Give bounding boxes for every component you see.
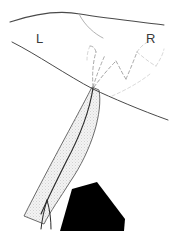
branch-left-mid xyxy=(93,55,105,87)
branch-left-hook xyxy=(90,46,96,52)
branch-left-tip xyxy=(87,46,90,60)
branch-right-low xyxy=(112,74,150,96)
top-arc xyxy=(10,13,164,25)
left-side-label: L xyxy=(36,31,43,46)
apex-descending-curve xyxy=(79,14,103,38)
left-oblique-curve xyxy=(12,42,93,89)
branch-center-rise xyxy=(126,52,137,79)
branch-right-tail xyxy=(156,49,164,66)
dashed-branch-group xyxy=(87,41,164,96)
branch-right-arc xyxy=(137,52,156,66)
figure-canvas: L R xyxy=(0,0,171,231)
branch-center-dip xyxy=(116,61,126,79)
anatomical-figure: L R xyxy=(0,0,171,231)
solid-black-wedge xyxy=(60,182,125,231)
branch-left-upper xyxy=(93,52,96,87)
right-sweeping-curve xyxy=(93,89,168,120)
right-side-label: R xyxy=(146,31,155,46)
